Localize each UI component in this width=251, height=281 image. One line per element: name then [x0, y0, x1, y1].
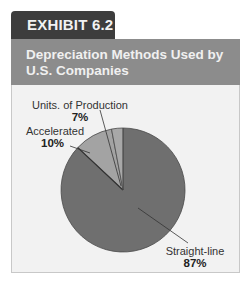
label-units-of-production: Units. of Production 7% — [30, 99, 130, 123]
label-accelerated: Accelerated 10% — [24, 125, 86, 149]
label-straight-line: Straight-line 87% — [163, 245, 227, 269]
